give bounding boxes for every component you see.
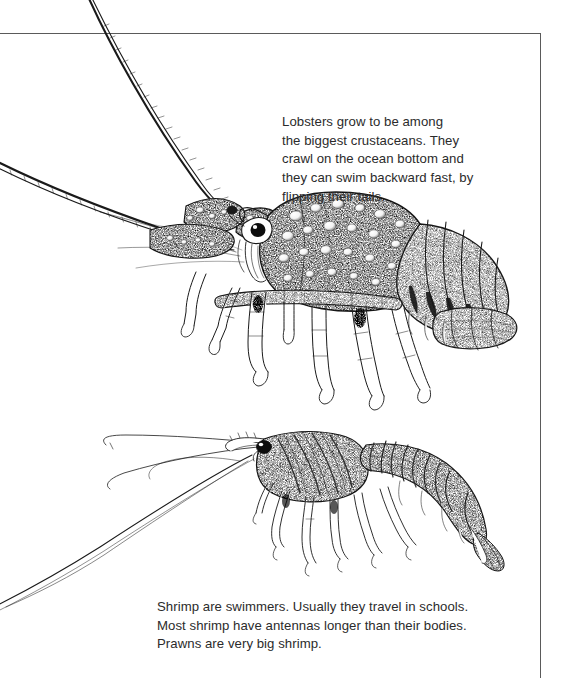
lobster-caption-text: Lobsters grow to be among the biggest cr… [282,113,522,206]
shrimp-carapace [257,432,369,502]
shrimp-caption-text: Shrimp are swimmers. Usually they travel… [157,598,537,654]
shrimp-abdomen [361,441,487,545]
shrimp-antennae [0,435,262,613]
shrimp-drawing [0,395,545,595]
book-page: Lobsters grow to be among the biggest cr… [0,0,561,678]
